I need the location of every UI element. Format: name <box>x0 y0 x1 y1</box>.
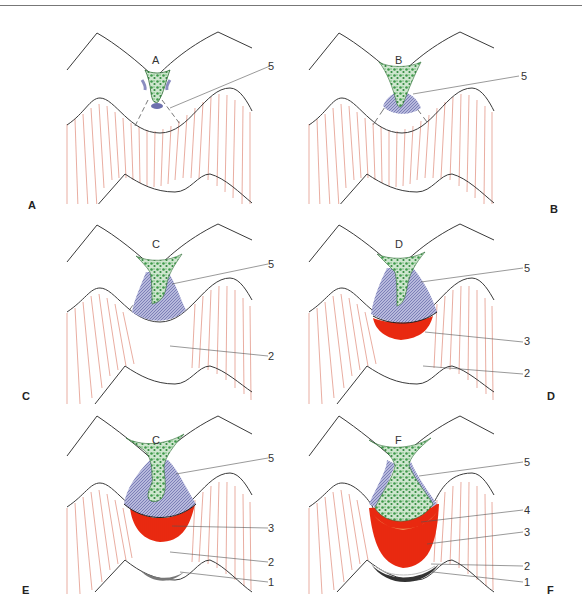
top-rule <box>0 5 582 6</box>
callout-3: 3 <box>524 526 530 538</box>
callout-3: 3 <box>524 335 530 347</box>
callout-1: 1 <box>268 576 274 588</box>
panel-corner-label: D <box>547 390 555 402</box>
panel-label: D <box>395 238 403 250</box>
callout-5: 5 <box>524 262 530 274</box>
callout-5: 5 <box>268 60 274 72</box>
callout-5: 5 <box>268 258 274 270</box>
panel-label: C <box>152 434 160 446</box>
panel-corner-label: E <box>22 584 29 596</box>
panel-label: A <box>152 54 159 66</box>
panel-e: C 5 3 2 1 E <box>0 404 291 600</box>
callout-2: 2 <box>268 556 274 568</box>
callout-3: 3 <box>268 522 274 534</box>
callout-2: 2 <box>524 560 530 572</box>
panel-d: D 5 3 2 D <box>291 208 582 404</box>
panel-label: C <box>152 238 160 250</box>
panel-b: B 5 B <box>291 8 582 204</box>
panel-corner-label: C <box>22 390 30 402</box>
callout-2: 2 <box>268 350 274 362</box>
callout-1: 1 <box>524 576 530 588</box>
panel-label: B <box>395 54 402 66</box>
panel-c: C 5 2 C <box>0 208 291 404</box>
panel-corner-label: F <box>547 584 554 596</box>
callout-5: 5 <box>524 456 530 468</box>
callout-5: 5 <box>268 452 274 464</box>
panel-a: A 5 A <box>0 8 291 204</box>
panel-f: F 5 4 3 2 1 F <box>291 404 582 600</box>
callout-4: 4 <box>524 504 530 516</box>
callout-2: 2 <box>524 367 530 379</box>
panel-label: F <box>395 434 402 446</box>
callout-5: 5 <box>521 70 527 82</box>
